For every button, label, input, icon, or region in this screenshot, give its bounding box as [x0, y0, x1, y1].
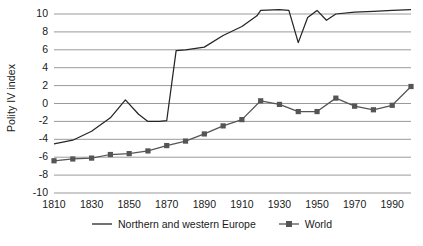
data-point-marker: [183, 138, 188, 143]
data-point-marker: [314, 109, 319, 114]
series-line-europe: [54, 10, 411, 144]
legend-swatch-line-marker-icon: [278, 219, 300, 229]
data-point-marker: [164, 143, 169, 148]
data-point-marker: [108, 152, 113, 157]
data-point-marker: [333, 96, 338, 101]
data-point-marker: [145, 148, 150, 153]
data-point-marker: [408, 84, 413, 89]
data-point-marker: [70, 156, 75, 161]
data-point-marker: [258, 98, 263, 103]
plot-area: [0, 0, 423, 246]
data-point-marker: [277, 102, 282, 107]
data-series-layer: [51, 10, 413, 164]
data-point-marker: [390, 103, 395, 108]
gridlines: [54, 14, 411, 193]
legend-label-world: World: [305, 218, 332, 230]
data-point-marker: [352, 104, 357, 109]
legend-label-europe: Northern and western Europe: [118, 218, 256, 230]
data-point-marker: [51, 158, 56, 163]
data-point-marker: [296, 109, 301, 114]
series-line-world: [54, 87, 411, 161]
polity-iv-index-chart: Polity IV index 1086420-2-4-6-8-10 18101…: [0, 0, 423, 246]
chart-legend: Northern and western Europe World: [0, 218, 423, 230]
legend-entry-northern-and-western-europe: Northern and western Europe: [91, 218, 256, 230]
data-point-marker: [371, 107, 376, 112]
legend-swatch-line-icon: [91, 219, 113, 229]
legend-entry-world: World: [278, 218, 332, 230]
data-point-marker: [89, 156, 94, 161]
data-point-marker: [239, 117, 244, 122]
data-point-marker: [127, 151, 132, 156]
data-point-marker: [202, 131, 207, 136]
data-point-marker: [221, 123, 226, 128]
